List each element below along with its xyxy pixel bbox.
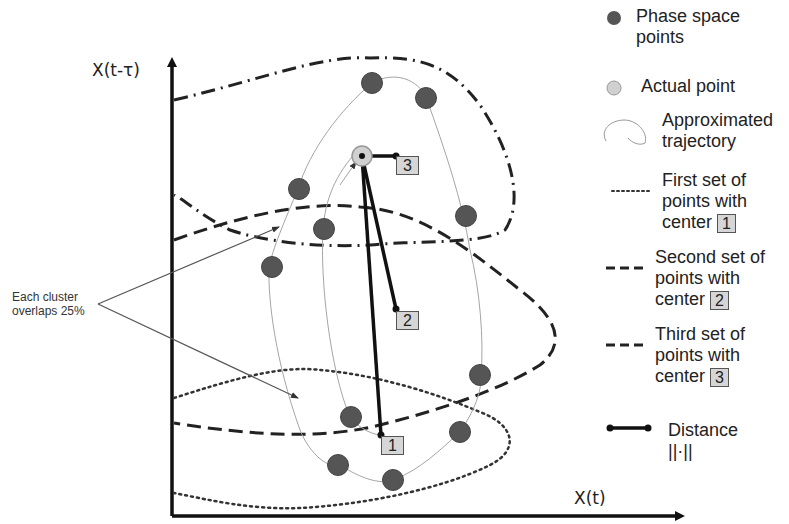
actual-point-center [359, 153, 365, 159]
legend-badge-1: 1 [717, 214, 736, 233]
legend-second-set-line2: points with [655, 268, 765, 289]
approximated-trajectory [269, 77, 482, 482]
legend-trajectory-line1: Approximated [662, 110, 773, 131]
legend-second-set-line3: center 2 [655, 289, 765, 310]
legend-actual-point-icon [607, 81, 621, 95]
legend-first-set: First set of points with center 1 [662, 170, 747, 233]
center-label-1: 1 [381, 436, 404, 455]
annotation-line1: Each cluster [12, 290, 85, 304]
legend-first-set-line3: center 1 [662, 212, 747, 233]
legend-distance-line2: ||·|| [668, 441, 738, 462]
legend-distance-end-left [607, 425, 614, 432]
legend-first-set-line1: First set of [662, 170, 747, 191]
legend-badge-3: 3 [710, 368, 729, 387]
second-cluster-boundary [174, 206, 555, 435]
legend-phase-points-line1: Phase space [636, 6, 740, 27]
legend-actual-point: Actual point [641, 76, 735, 97]
y-axis-label: X(t-τ) [92, 60, 140, 80]
legend-trajectory-icon [604, 120, 645, 144]
legend-third-set: Third set of points with center 3 [655, 324, 745, 387]
legend-distance: Distance ||·|| [668, 420, 738, 462]
overlap-arrow-lower [98, 304, 298, 398]
legend-first-set-center-text: center [662, 212, 712, 232]
annotation-line2: overlaps 25% [12, 304, 85, 318]
phase-space-points [262, 73, 491, 491]
x-axis-label: X(t) [574, 488, 606, 508]
legend-trajectory-line2: trajectory [662, 131, 773, 152]
legend-phase-points-line2: points [636, 27, 740, 48]
legend-second-set: Second set of points with center 2 [655, 247, 765, 310]
center-label-2: 2 [396, 311, 419, 330]
trajectory-arrow [340, 162, 356, 185]
legend-actual-point-line1: Actual point [641, 76, 735, 97]
legend-distance-line1: Distance [668, 420, 738, 441]
overlap-annotation: Each cluster overlaps 25% [12, 290, 85, 318]
legend-second-set-center-text: center [655, 289, 705, 309]
legend-third-set-line1: Third set of [655, 324, 745, 345]
overlap-arrow-upper [98, 227, 279, 304]
legend-trajectory: Approximated trajectory [662, 110, 773, 152]
legend-badge-2: 2 [710, 291, 729, 310]
legend-phase-points: Phase space points [636, 6, 740, 48]
legend-second-set-line1: Second set of [655, 247, 765, 268]
legend-first-set-line2: points with [662, 191, 747, 212]
center-label-3: 3 [396, 156, 419, 175]
legend-phase-point-icon [607, 11, 621, 25]
legend-third-set-line2: points with [655, 345, 745, 366]
legend-distance-end-right [645, 425, 652, 432]
legend-third-set-line3: center 3 [655, 366, 745, 387]
legend-third-set-center-text: center [655, 366, 705, 386]
distance-lines [362, 156, 396, 435]
